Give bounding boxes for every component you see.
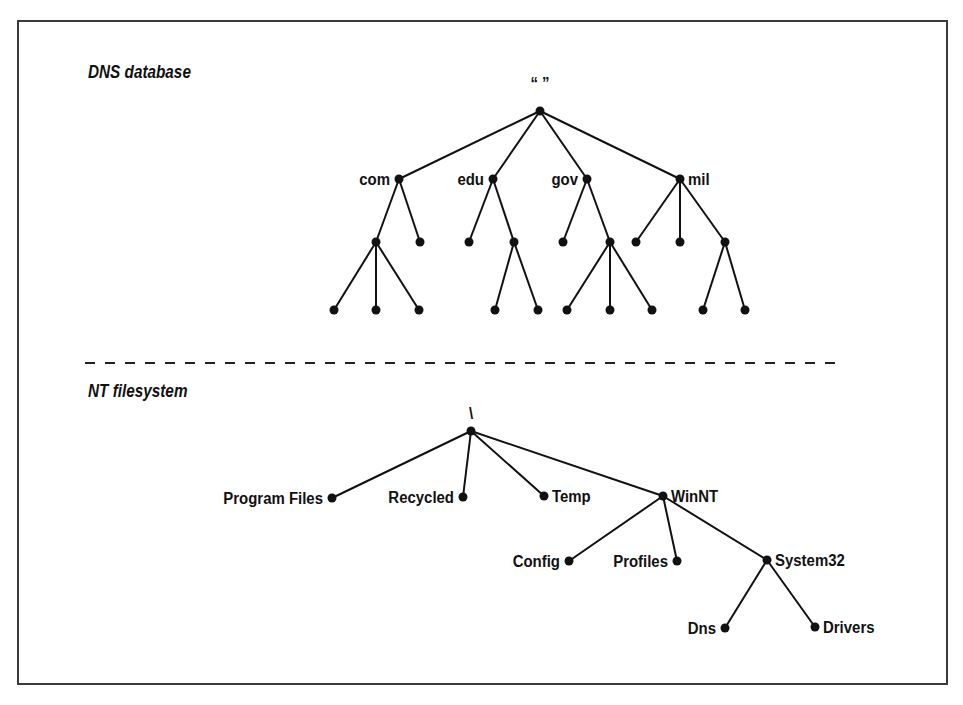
dns-node-m3b — [741, 306, 750, 315]
dns-edge — [540, 111, 587, 179]
dns-label-edu: edu — [457, 170, 484, 188]
nt-label-dns: Dns — [688, 619, 716, 637]
nt-node-temp — [540, 492, 549, 501]
nt-label-drivers: Drivers — [823, 618, 875, 636]
dns-node-c1a — [330, 306, 339, 315]
nt-node-winnt — [659, 492, 668, 501]
nt-edge — [463, 431, 471, 497]
dns-edge — [399, 179, 420, 242]
dns-edge — [680, 179, 725, 242]
nt-filesystem-tree: \Program FilesRecycledTempWinNTConfigPro… — [223, 404, 874, 637]
dns-node-mil2 — [676, 238, 685, 247]
nt-label-system32: System32 — [775, 551, 845, 569]
dns-edge — [376, 179, 399, 242]
dns-edge — [725, 242, 745, 310]
dns-node-edu — [489, 175, 498, 184]
dns-node-e2a — [491, 306, 500, 315]
dns-edge — [636, 179, 680, 242]
dns-node-root — [536, 107, 545, 116]
nt-edge — [725, 560, 767, 628]
dns-edge — [610, 242, 652, 310]
dns-node-com1 — [372, 238, 381, 247]
dns-label-com: com — [359, 170, 390, 188]
dns-edge — [587, 179, 610, 242]
dns-node-g2a — [563, 306, 572, 315]
dns-tree: “ ”comedugovmil — [330, 74, 750, 314]
dns-edge — [495, 242, 514, 310]
nt-edge — [663, 496, 767, 560]
nt-label-temp: Temp — [552, 487, 591, 505]
dns-edge — [334, 242, 376, 310]
dns-node-com2 — [416, 238, 425, 247]
dns-node-c1c — [415, 306, 424, 315]
dns-node-gov2 — [606, 238, 615, 247]
dns-node-g2c — [648, 306, 657, 315]
tree-diagrams: “ ”comedugovmil \Program FilesRecycledTe… — [0, 0, 963, 705]
dns-node-edu1 — [465, 238, 474, 247]
dns-edge — [493, 179, 514, 242]
dns-edge — [703, 242, 725, 310]
nt-node-progfiles — [328, 494, 337, 503]
dns-node-com — [395, 175, 404, 184]
nt-label-config: Config — [513, 552, 560, 570]
dns-node-edu2 — [510, 238, 519, 247]
nt-node-recycled — [459, 493, 468, 502]
nt-label-progfiles: Program Files — [223, 489, 323, 507]
dns-edge — [514, 242, 538, 310]
nt-edge — [471, 431, 544, 496]
nt-node-system32 — [763, 556, 772, 565]
dns-node-mil1 — [632, 238, 641, 247]
nt-node-config — [565, 557, 574, 566]
nt-node-drivers — [811, 623, 820, 632]
dns-edge — [567, 242, 610, 310]
nt-node-root — [467, 427, 476, 436]
dns-node-gov — [583, 175, 592, 184]
nt-label-profiles: Profiles — [613, 552, 668, 570]
dns-node-g2b — [606, 306, 615, 315]
nt-node-profiles — [673, 557, 682, 566]
dns-edge — [376, 242, 419, 310]
dns-node-m3a — [699, 306, 708, 315]
dns-node-e2b — [534, 306, 543, 315]
dns-edge — [493, 111, 540, 179]
nt-edge — [767, 560, 815, 627]
dns-edge — [469, 179, 493, 242]
nt-label-winnt: WinNT — [671, 487, 718, 505]
dns-label-root: “ ” — [530, 74, 549, 92]
dns-edge — [563, 179, 587, 242]
dns-label-mil: mil — [688, 170, 710, 188]
dns-edge — [540, 111, 680, 179]
nt-label-root: \ — [469, 404, 474, 422]
dns-label-gov: gov — [551, 170, 578, 188]
dns-edge — [399, 111, 540, 179]
dns-node-mil — [676, 175, 685, 184]
nt-node-dns — [721, 624, 730, 633]
dns-node-gov1 — [559, 238, 568, 247]
dns-node-mil3 — [721, 238, 730, 247]
dns-node-c1b — [372, 306, 381, 315]
nt-label-recycled: Recycled — [388, 488, 454, 506]
